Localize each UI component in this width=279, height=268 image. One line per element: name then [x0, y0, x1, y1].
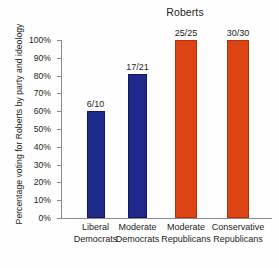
y-axis-tick-label: 10% [34, 195, 51, 205]
bar: 30/30 [227, 40, 249, 218]
y-axis-tick: 70% [57, 93, 61, 94]
y-axis-tick: 10% [57, 200, 61, 201]
y-axis-tick-label: 70% [34, 88, 51, 98]
y-axis-tick: 20% [57, 182, 61, 183]
y-axis-tick-label: 50% [34, 124, 51, 134]
bar: 6/10 [87, 111, 105, 218]
x-axis-category-label: ConservativeRepublicans [207, 222, 269, 245]
bar-value-label: 17/21 [126, 62, 149, 72]
y-axis-tick-label: 40% [34, 142, 51, 152]
y-axis-tick: 30% [57, 165, 61, 166]
bar-value-label: 30/30 [227, 28, 250, 38]
y-axis-tick-label: 0% [39, 213, 51, 223]
x-axis-category-label-line: Conservative [207, 222, 269, 234]
chart-container: Roberts Percentage voting for Roberts by… [0, 0, 279, 268]
bar-value-label: 6/10 [87, 99, 105, 109]
y-axis-tick-label: 80% [34, 71, 51, 81]
y-axis-tick: 40% [57, 147, 61, 148]
y-axis-title: Percentage voting for Roberts by party a… [12, 28, 26, 220]
bar: 25/25 [175, 40, 197, 218]
x-axis-line [61, 218, 272, 219]
y-axis-tick: 100% [57, 40, 61, 41]
y-axis-tick: 50% [57, 129, 61, 130]
y-axis-tick: 90% [57, 58, 61, 59]
x-axis-category-label-line: Republicans [207, 234, 269, 246]
plot-area: 0%10%20%30%40%50%60%70%80%90%100% 6/1017… [61, 40, 272, 218]
bar: 17/21 [128, 74, 147, 218]
y-axis-title-text: Percentage voting for Roberts by party a… [14, 24, 24, 225]
y-axis-tick: 60% [57, 111, 61, 112]
y-axis-line [61, 40, 62, 218]
y-axis-tick-label: 90% [34, 53, 51, 63]
bar-value-label: 25/25 [175, 28, 198, 38]
y-axis-tick: 0% [57, 218, 61, 219]
chart-title: Roberts [140, 6, 230, 18]
y-axis-tick-label: 60% [34, 106, 51, 116]
y-axis-tick-label: 100% [29, 35, 51, 45]
y-axis-tick: 80% [57, 76, 61, 77]
y-axis-tick-label: 30% [34, 160, 51, 170]
y-axis-tick-label: 20% [34, 177, 51, 187]
